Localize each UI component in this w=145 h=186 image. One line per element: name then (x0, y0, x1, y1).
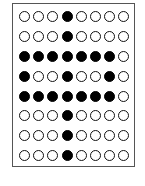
empty-dot (33, 31, 44, 42)
empty-dot (76, 71, 87, 82)
filled-dot (62, 71, 73, 82)
empty-dot (104, 150, 115, 161)
empty-dot (19, 150, 30, 161)
empty-dot (47, 11, 58, 22)
filled-dot (62, 130, 73, 141)
empty-dot (90, 130, 101, 141)
empty-dot (76, 11, 87, 22)
filled-dot (104, 91, 115, 102)
empty-dot (90, 11, 101, 22)
empty-dot (33, 130, 44, 141)
empty-dot (76, 110, 87, 121)
filled-dot (33, 51, 44, 62)
filled-dot (62, 91, 73, 102)
empty-dot (90, 71, 101, 82)
empty-dot (47, 71, 58, 82)
empty-dot (47, 150, 58, 161)
empty-dot (104, 130, 115, 141)
empty-dot (19, 11, 30, 22)
filled-dot (76, 91, 87, 102)
filled-dot (62, 11, 73, 22)
empty-dot (118, 71, 129, 82)
empty-dot (76, 31, 87, 42)
empty-dot (33, 110, 44, 121)
filled-dot (90, 51, 101, 62)
empty-dot (76, 130, 87, 141)
filled-dot (104, 51, 115, 62)
filled-dot (33, 91, 44, 102)
filled-dot (62, 150, 73, 161)
empty-dot (118, 11, 129, 22)
empty-dot (33, 71, 44, 82)
empty-dot (90, 150, 101, 161)
empty-dot (118, 31, 129, 42)
filled-dot (104, 71, 115, 82)
empty-dot (76, 150, 87, 161)
empty-dot (47, 130, 58, 141)
empty-dot (19, 130, 30, 141)
filled-dot (19, 51, 30, 62)
empty-dot (104, 110, 115, 121)
filled-dot (47, 91, 58, 102)
filled-dot (90, 91, 101, 102)
empty-dot (47, 31, 58, 42)
empty-dot (104, 31, 115, 42)
empty-dot (104, 11, 115, 22)
dot-matrix-grid (18, 10, 132, 169)
empty-dot (90, 31, 101, 42)
filled-dot (47, 51, 58, 62)
filled-dot (19, 71, 30, 82)
filled-dot (19, 91, 30, 102)
empty-dot (90, 110, 101, 121)
dot-matrix-frame (12, 3, 135, 167)
empty-dot (118, 110, 129, 121)
empty-dot (118, 150, 129, 161)
filled-dot (76, 51, 87, 62)
empty-dot (118, 130, 129, 141)
filled-dot (62, 110, 73, 121)
empty-dot (118, 51, 129, 62)
empty-dot (19, 110, 30, 121)
empty-dot (118, 91, 129, 102)
empty-dot (33, 11, 44, 22)
empty-dot (47, 110, 58, 121)
empty-dot (19, 31, 30, 42)
filled-dot (62, 51, 73, 62)
filled-dot (62, 31, 73, 42)
empty-dot (33, 150, 44, 161)
